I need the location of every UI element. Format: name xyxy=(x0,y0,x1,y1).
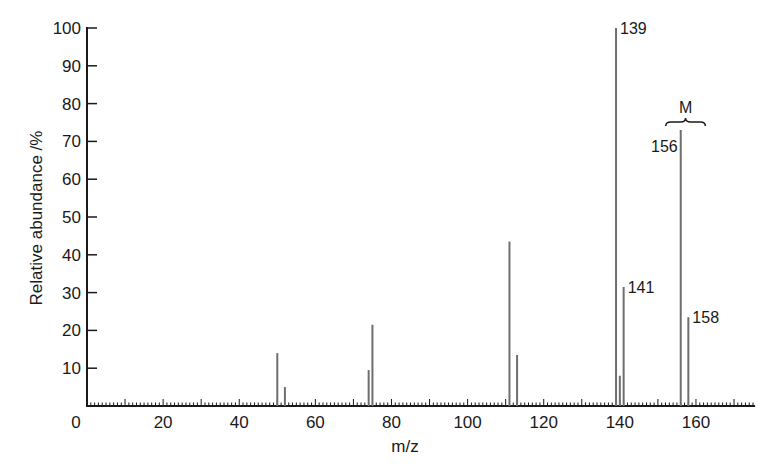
annotations: M xyxy=(666,99,706,126)
x-tick-label: 140 xyxy=(606,413,634,432)
y-tick-label: 90 xyxy=(62,57,81,76)
x-tick-label: 100 xyxy=(453,413,481,432)
y-tick-label: 40 xyxy=(62,246,81,265)
y-tick-label: 30 xyxy=(62,284,81,303)
y-tick-label: 100 xyxy=(53,19,81,38)
x-tick-label: 40 xyxy=(230,413,249,432)
x-tick-label: 80 xyxy=(382,413,401,432)
y-tick-label: 50 xyxy=(62,208,81,227)
y-axis-title: Relative abundance /% xyxy=(27,131,46,306)
y-tick-label: 20 xyxy=(62,321,81,340)
x-tick-label: 60 xyxy=(306,413,325,432)
y-tick-label: 80 xyxy=(62,95,81,114)
y-axis: 102030405060708090100 xyxy=(53,19,97,407)
x-axis-title: m/z xyxy=(391,437,418,456)
x-axis: 020406080100120140160 xyxy=(71,399,755,432)
peaks: 139141156158 xyxy=(277,20,719,406)
x-tick-label: 160 xyxy=(682,413,710,432)
y-tick-label: 70 xyxy=(62,132,81,151)
x-tick-label: 0 xyxy=(71,413,80,432)
y-tick-label: 10 xyxy=(62,359,81,378)
peak-label-139: 139 xyxy=(620,20,647,37)
molecular-ion-label: M xyxy=(679,99,692,116)
x-tick-label: 120 xyxy=(530,413,558,432)
peak-label-141: 141 xyxy=(628,279,655,296)
y-tick-label: 60 xyxy=(62,170,81,189)
peak-label-156: 156 xyxy=(651,138,678,155)
x-tick-label: 20 xyxy=(154,413,173,432)
mass-spectrum-chart: 102030405060708090100 020406080100120140… xyxy=(0,0,773,466)
molecular-ion-brace xyxy=(666,118,706,126)
peak-label-158: 158 xyxy=(692,309,719,326)
